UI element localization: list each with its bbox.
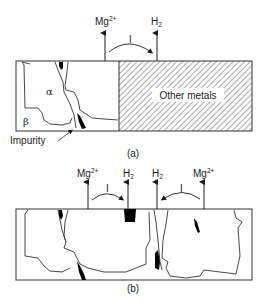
impurity-particle: [124, 209, 136, 222]
impurity-label: Impurity: [10, 135, 46, 146]
current-label-right: I: [180, 183, 183, 194]
mg-ion-label-right: Mg2+: [193, 167, 215, 179]
current-flow-arrow-left: [92, 194, 122, 200]
mg-ion-label: Mg2+: [95, 15, 117, 27]
alpha-phase-label: α: [46, 86, 53, 97]
h2-label-left: H2: [123, 168, 134, 180]
beta-phase-label: β: [23, 116, 29, 127]
figure-b: Mg2+ H2 I H2 Mg2+ I (b): [16, 167, 252, 294]
grain-boundaries-a: [22, 62, 118, 128]
h2-label: H2: [151, 16, 162, 28]
impurity-particle: [77, 113, 86, 129]
impurity-particle: [77, 261, 86, 280]
figure-a: Other metals α β Impurity Mg2+ H2 I (a): [10, 15, 252, 159]
current-label-left: I: [106, 183, 109, 194]
current-label: I: [129, 34, 132, 45]
current-flow-arrow: [109, 44, 151, 52]
impurity-pointer-arrow: [58, 131, 71, 141]
mg-ion-label-left: Mg2+: [77, 167, 99, 179]
galvanic-corrosion-diagram: Other metals α β Impurity Mg2+ H2 I (a): [0, 0, 266, 303]
other-metals-label: Other metals: [159, 90, 216, 101]
impurity-particle: [59, 62, 63, 70]
figure-b-caption: (b): [127, 283, 139, 294]
h2-label-right: H2: [152, 168, 163, 180]
impurity-particle: [194, 218, 200, 233]
figure-a-caption: (a): [127, 148, 139, 159]
